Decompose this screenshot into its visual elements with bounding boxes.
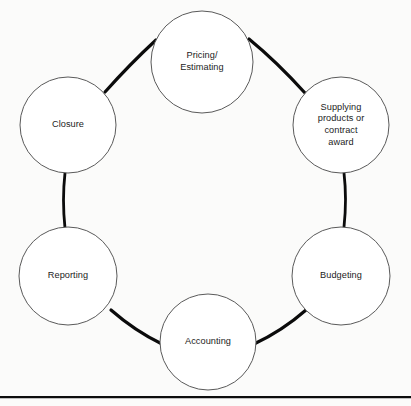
footer-divider-shadow [0,398,411,399]
connector-accounting-to-reporting [111,310,162,344]
node-circle-supplying-products-or-contract-award[interactable] [293,77,389,173]
connector-budgeting-to-accounting [254,310,306,344]
node-circle-group [19,11,390,390]
cycle-canvas [0,0,411,406]
process-cycle-diagram: Pricing/ Estimating Supplying products o… [0,0,411,406]
connector-supplying-to-budgeting [344,173,346,227]
node-circle-closure[interactable] [20,77,116,173]
node-circle-pricing-estimating[interactable] [151,11,253,113]
node-circle-accounting[interactable] [160,294,256,390]
connector-reporting-to-closure [64,173,66,228]
node-circle-budgeting[interactable] [292,227,390,325]
node-circle-reporting[interactable] [19,227,117,325]
connector-closure-to-pricing [105,40,156,92]
connector-pricing-to-supplying [249,39,305,93]
